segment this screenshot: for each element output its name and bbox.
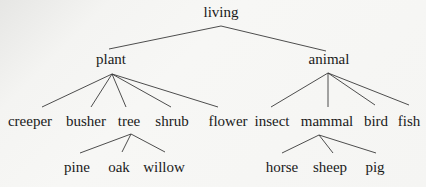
edge-plant-shrub <box>112 74 171 107</box>
edge-plant-flower <box>112 74 218 107</box>
edge-mammal-horse <box>282 135 319 153</box>
node-bird: bird <box>364 114 388 129</box>
node-shrub: shrub <box>155 114 188 129</box>
node-willow: willow <box>143 160 185 175</box>
edge-mammal-sheep <box>319 135 333 153</box>
node-flower: flower <box>208 114 247 129</box>
edge-tree-willow <box>131 134 165 152</box>
node-pine: pine <box>64 160 90 175</box>
edge-plant-tree <box>112 74 126 107</box>
node-insect: insect <box>255 114 290 129</box>
node-fish: fish <box>398 114 421 129</box>
node-horse: horse <box>266 160 299 175</box>
node-tree: tree <box>118 114 140 129</box>
edge-living-plant <box>109 26 221 49</box>
node-busher: busher <box>66 114 106 129</box>
edge-living-animal <box>221 26 326 51</box>
node-living: living <box>203 5 238 20</box>
node-pig: pig <box>365 160 384 175</box>
node-plant: plant <box>96 52 126 67</box>
edge-mammal-pig <box>319 135 376 153</box>
node-sheep: sheep <box>313 160 347 175</box>
edge-animal-insect <box>271 73 328 107</box>
node-mammal: mammal <box>301 114 354 129</box>
node-animal: animal <box>309 52 350 67</box>
node-oak: oak <box>108 160 130 175</box>
node-creeper: creeper <box>8 114 52 129</box>
